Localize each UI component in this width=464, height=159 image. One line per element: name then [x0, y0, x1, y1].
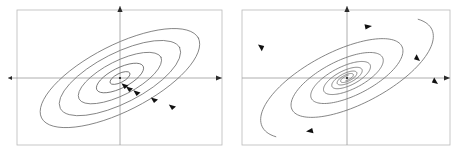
right-y-axis-arrow-icon: [344, 6, 349, 12]
right-panel-svg: [0, 0, 464, 159]
right-flow-arrow-top: [365, 24, 373, 29]
right-flow-arrow-bottom: [306, 128, 314, 133]
right-equilibrium-point: [346, 77, 348, 79]
phase-portrait-figure: [0, 0, 464, 159]
right-flow-arrow-left: [258, 45, 264, 52]
right-spiral-b: [282, 16, 448, 134]
right-panel-frame: [242, 10, 450, 145]
right-x-axis-arrow-icon: [444, 75, 450, 80]
right-flow-arrow-upper-right: [414, 54, 420, 61]
right-spiral-a: [246, 22, 412, 140]
